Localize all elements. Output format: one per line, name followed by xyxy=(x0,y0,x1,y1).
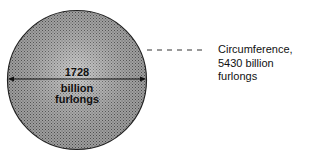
circumference-label-line1: Circumference, xyxy=(218,43,293,56)
planet-circle xyxy=(8,11,147,150)
circumference-label-line2: 5430 billion furlongs xyxy=(218,57,313,83)
diameter-unit-line2: furlongs xyxy=(37,93,117,105)
diameter-value: 1728 xyxy=(37,66,117,78)
